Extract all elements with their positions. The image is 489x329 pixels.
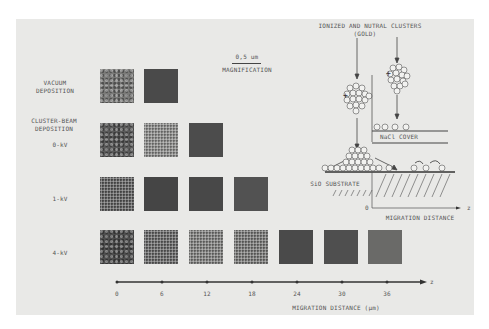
axis-end-label: z [428, 278, 436, 286]
schematic-subtitle: (GOLD) [345, 30, 385, 38]
diagram-graphics: + + [0, 0, 489, 329]
axis-title: MIGRATION DISTANCE (µm) [280, 304, 392, 312]
migration-axis [116, 280, 428, 285]
schematic-title: IONIZED AND NUTRAL CLUSTERS [305, 22, 435, 30]
tick-label: 0 [110, 290, 124, 298]
deposited-clusters [322, 147, 445, 171]
cluster-ionized-left [344, 83, 372, 114]
substrate-label: SiO SUBSTRATE [305, 180, 365, 188]
charge-symbol: + [386, 69, 391, 78]
tick-label: 6 [155, 290, 169, 298]
tick-label: 30 [335, 290, 349, 298]
charge-symbol: + [343, 91, 348, 100]
schematic-origin-label: 0 [363, 204, 371, 212]
tick-label: 36 [380, 290, 394, 298]
tick-label: 12 [200, 290, 214, 298]
nacl-cover-label: NaCl COVER [380, 133, 430, 141]
tick-label: 24 [290, 290, 304, 298]
sio-substrate [322, 147, 455, 197]
schematic-z-label: z [465, 204, 473, 212]
schematic-axis-title: MIGRATION DISTANCE [376, 214, 464, 222]
tick-label: 18 [245, 290, 259, 298]
